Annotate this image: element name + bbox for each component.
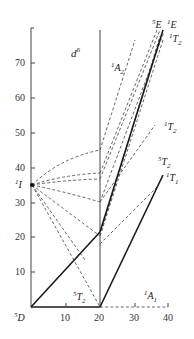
- term-1T1: 1T1: [166, 172, 179, 186]
- origin-label-5D: 5D: [14, 312, 25, 323]
- y-tick-50: 50: [15, 128, 25, 138]
- term-1I: 1I: [15, 179, 22, 190]
- term-1A1: 1A1: [144, 290, 157, 304]
- term-5T2-right: 5T2: [158, 156, 171, 170]
- x-tick-10: 10: [60, 313, 70, 323]
- y-tick-40: 40: [15, 163, 25, 173]
- x-tick-30: 30: [129, 313, 139, 323]
- y-tick-60: 60: [15, 93, 25, 103]
- x-tick-40: 40: [163, 313, 173, 323]
- diagram-title: d6: [71, 47, 80, 59]
- term-1T2-top: 1T2: [169, 33, 182, 47]
- y-tick-30: 30: [15, 198, 25, 208]
- y-tick-10: 10: [15, 267, 25, 277]
- y-tick-20: 20: [15, 232, 25, 242]
- point-1I: [30, 183, 34, 187]
- term-1T2-mid: 1T2: [164, 121, 177, 135]
- axes: [31, 28, 168, 307]
- term-1E: 1E: [167, 19, 177, 30]
- y-tick-70: 70: [15, 58, 25, 68]
- term-5T2-low: 5T2: [73, 291, 86, 305]
- term-5E: 5E: [152, 19, 162, 30]
- x-tick-20: 20: [94, 313, 104, 323]
- term-1A2: 1A2: [111, 62, 124, 76]
- line-5E-high: [100, 30, 163, 232]
- line-5E-low: [31, 232, 100, 307]
- line-5T2-high: [100, 175, 163, 307]
